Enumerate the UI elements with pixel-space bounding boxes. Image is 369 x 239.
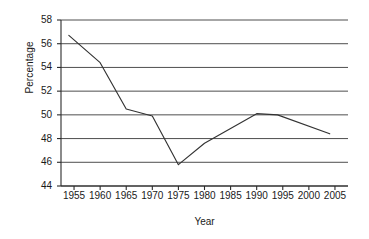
x-tick-label: 1955 xyxy=(63,190,85,201)
plot-area xyxy=(61,20,348,186)
x-tick-label: 1985 xyxy=(219,190,241,201)
x-tick-label: 1980 xyxy=(193,190,215,201)
y-tick-label: 58 xyxy=(41,15,52,25)
x-tick-label: 1990 xyxy=(246,190,268,201)
x-tick-label: 1995 xyxy=(272,190,294,201)
x-tick-label: 1960 xyxy=(89,190,111,201)
x-axis-tick-labels: 1955196019651970197519801985199019952000… xyxy=(0,190,369,206)
plot-svg xyxy=(61,20,348,186)
x-axis-title: Year xyxy=(61,216,348,227)
y-tick-label: 54 xyxy=(41,62,52,72)
x-tick-label: 2005 xyxy=(324,190,346,201)
x-tick-label: 1975 xyxy=(167,190,189,201)
y-tick-label: 52 xyxy=(41,86,52,96)
x-tick-label: 2000 xyxy=(298,190,320,201)
x-tick-label: 1970 xyxy=(141,190,163,201)
x-tick-label: 1965 xyxy=(115,190,137,201)
data-series-line xyxy=(69,35,330,164)
y-tick-label: 50 xyxy=(41,110,52,120)
y-tick-label: 46 xyxy=(41,157,52,167)
y-axis-tick-labels: 5856545250484644 xyxy=(0,0,61,206)
line-chart: Percentage 5856545250484644 195519601965… xyxy=(0,0,369,239)
y-tick-label: 56 xyxy=(41,39,52,49)
gridlines xyxy=(61,20,348,186)
y-tick-label: 48 xyxy=(41,134,52,144)
